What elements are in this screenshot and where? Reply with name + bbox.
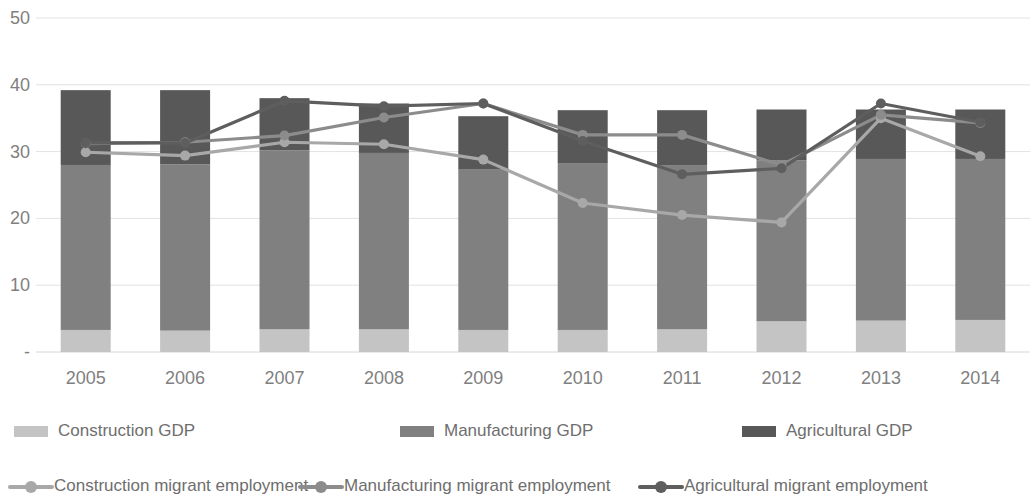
legend-swatch xyxy=(742,426,776,437)
data-point-marker xyxy=(379,101,389,111)
bar-segment xyxy=(856,159,906,321)
y-tick-label-30: 30 xyxy=(10,142,30,162)
y-tick-label-10: 10 xyxy=(10,275,30,295)
y-tick-label-0: - xyxy=(24,342,30,362)
legend-label: Construction migrant employment xyxy=(54,476,308,495)
legend-label: Agricultural migrant employment xyxy=(684,476,928,495)
x-tick-label-2011: 2011 xyxy=(663,368,702,388)
data-point-marker xyxy=(677,210,687,220)
bar-segment xyxy=(260,329,310,352)
legend-swatch xyxy=(14,426,48,437)
data-point-marker xyxy=(280,131,290,141)
stacked-bar-line-chart: -1020304050 2005200620072008200920102011… xyxy=(0,0,1035,504)
bar-segment xyxy=(558,164,608,330)
data-point-marker xyxy=(81,147,91,157)
data-point-marker xyxy=(478,155,488,165)
data-point-marker xyxy=(975,151,985,161)
data-point-marker xyxy=(975,117,985,127)
data-point-marker xyxy=(777,163,787,173)
y-tick-label-40: 40 xyxy=(10,75,30,95)
data-point-marker xyxy=(81,138,91,148)
data-point-marker xyxy=(478,99,488,109)
bar-segment xyxy=(160,164,210,330)
legend-point-marker xyxy=(25,481,37,493)
data-point-marker xyxy=(876,99,886,109)
bar-segment xyxy=(558,330,608,352)
bar-segment xyxy=(160,331,210,352)
legend-item-manufacturing-migrant-employment[interactable]: Manufacturing migrant employment xyxy=(300,476,611,495)
legend-item-construction-migrant-employment[interactable]: Construction migrant employment xyxy=(10,476,308,495)
bar-segment xyxy=(856,321,906,352)
bar-segment xyxy=(458,170,508,330)
data-point-marker xyxy=(677,130,687,140)
y-tick-label-20: 20 xyxy=(10,208,30,228)
legend-label: Construction GDP xyxy=(58,421,195,440)
bar-segment xyxy=(955,159,1005,320)
x-tick-label-2013: 2013 xyxy=(861,368,901,388)
bar-segment xyxy=(61,165,111,330)
x-tick-label-2007: 2007 xyxy=(264,368,304,388)
x-tick-label-2005: 2005 xyxy=(66,368,106,388)
data-point-marker xyxy=(180,151,190,161)
bar-segment xyxy=(458,330,508,352)
data-point-marker xyxy=(379,113,389,123)
data-point-marker xyxy=(379,139,389,149)
legend-point-marker xyxy=(315,481,327,493)
data-point-marker xyxy=(677,169,687,179)
data-point-marker xyxy=(280,96,290,106)
legend-point-marker xyxy=(655,481,667,493)
x-tick-label-2012: 2012 xyxy=(761,368,801,388)
data-point-marker xyxy=(777,217,787,227)
legend-swatch xyxy=(400,426,434,437)
bar-segment xyxy=(955,320,1005,352)
x-tick-label-2008: 2008 xyxy=(364,368,404,388)
bar-segment xyxy=(359,153,409,329)
bar-segment xyxy=(657,166,707,330)
bar-segment xyxy=(359,329,409,352)
bar-segment xyxy=(757,110,807,161)
legend-label: Manufacturing GDP xyxy=(444,421,593,440)
legend-label: Manufacturing migrant employment xyxy=(344,476,611,495)
data-point-marker xyxy=(578,136,588,146)
legend-item-agricultural-migrant-employment[interactable]: Agricultural migrant employment xyxy=(640,476,928,495)
bar-segment xyxy=(61,330,111,352)
bar-segment xyxy=(657,329,707,352)
data-point-marker xyxy=(578,198,588,208)
data-point-marker xyxy=(180,138,190,148)
bar-segment xyxy=(260,150,310,329)
bar-segment xyxy=(757,160,807,321)
chart-container: -1020304050 2005200620072008200920102011… xyxy=(0,0,1035,504)
legend-label: Agricultural GDP xyxy=(786,421,913,440)
bar-segment xyxy=(757,321,807,352)
x-tick-label-2009: 2009 xyxy=(463,368,503,388)
y-tick-label-50: 50 xyxy=(10,8,30,28)
x-tick-label-2006: 2006 xyxy=(165,368,205,388)
data-point-marker xyxy=(876,110,886,120)
x-tick-label-2010: 2010 xyxy=(563,368,603,388)
x-tick-label-2014: 2014 xyxy=(960,368,1000,388)
